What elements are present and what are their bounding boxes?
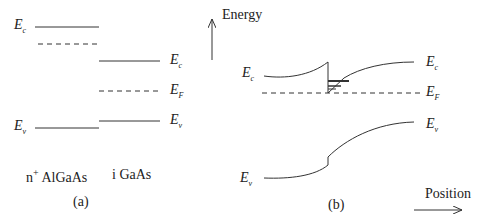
energy-axis-label: Energy <box>222 8 262 22</box>
a-ev-left-label: Ev <box>14 119 26 136</box>
b-ev-left-label: Ev <box>240 171 252 188</box>
b-ev-curve <box>264 122 414 178</box>
a-ef-right-label: EF <box>170 83 183 100</box>
b-ec-left-label: Ec <box>242 66 254 83</box>
a-ev-right-label: Ev <box>170 113 182 130</box>
a-material-left: n+ AlGaAs <box>26 168 87 185</box>
a-ec-right-label: Ec <box>170 53 182 70</box>
b-caption: (b) <box>328 198 344 212</box>
position-axis-label: Position <box>425 187 471 201</box>
band-diagram-canvas <box>0 0 482 223</box>
b-ef-right-label: EF <box>426 85 439 102</box>
b-ec-curve <box>264 62 414 93</box>
a-caption: (a) <box>73 195 89 209</box>
b-ev-right-label: Ev <box>426 117 438 134</box>
b-ec-right-label: Ec <box>426 55 438 72</box>
a-material-right: i GaAs <box>112 168 151 182</box>
a-ec-left-label: Ec <box>14 18 26 35</box>
